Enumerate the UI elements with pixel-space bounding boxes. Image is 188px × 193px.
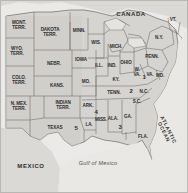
map-canvas: CANADAMEXICOATLANTIC OCEANGulf of Mexico… [0,0,188,193]
map-geometry [0,0,188,193]
